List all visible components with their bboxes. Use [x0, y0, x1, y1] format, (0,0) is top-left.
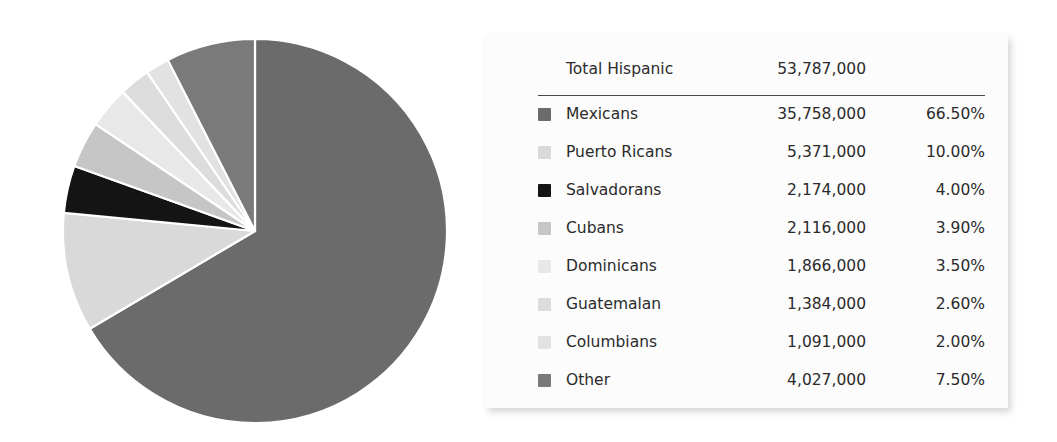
legend-row-percent: 2.60%: [866, 286, 985, 324]
legend-swatch-cell: [538, 286, 563, 324]
legend-row-value: 5,371,000: [718, 134, 866, 172]
legend-row[interactable]: Puerto Ricans5,371,00010.00%: [538, 134, 985, 172]
legend-row-percent: 3.50%: [866, 248, 985, 286]
legend-row-value: 4,027,000: [718, 362, 866, 400]
legend-color-swatch: [538, 374, 551, 387]
legend-table: Total Hispanic 53,787,000 Mexicans35,758…: [538, 52, 985, 400]
legend-row[interactable]: Salvadorans2,174,0004.00%: [538, 172, 985, 210]
legend-row-label: Columbians: [563, 324, 718, 362]
legend-header-label: Total Hispanic: [563, 52, 718, 95]
legend-row[interactable]: Cubans2,116,0003.90%: [538, 210, 985, 248]
legend-color-swatch: [538, 146, 551, 159]
legend-row-percent: 7.50%: [866, 362, 985, 400]
legend-row-percent: 66.50%: [866, 96, 985, 134]
legend-row[interactable]: Columbians1,091,0002.00%: [538, 324, 985, 362]
legend-header-row: Total Hispanic 53,787,000: [538, 52, 985, 95]
legend-row-value: 35,758,000: [718, 96, 866, 134]
legend-row-label: Guatemalan: [563, 286, 718, 324]
legend-row-percent: 2.00%: [866, 324, 985, 362]
legend-row-label: Other: [563, 362, 718, 400]
legend-swatch-cell: [538, 134, 563, 172]
legend-row-label: Mexicans: [563, 96, 718, 134]
legend-row[interactable]: Other4,027,0007.50%: [538, 362, 985, 400]
legend-row-label: Salvadorans: [563, 172, 718, 210]
pie-chart: [62, 38, 448, 424]
legend-color-swatch: [538, 260, 551, 273]
legend-color-swatch: [538, 336, 551, 349]
legend-panel: Total Hispanic 53,787,000 Mexicans35,758…: [485, 35, 1008, 408]
legend-swatch-cell: [538, 362, 563, 400]
legend-row-percent: 4.00%: [866, 172, 985, 210]
legend-color-swatch: [538, 222, 551, 235]
legend-color-swatch: [538, 298, 551, 311]
pie-chart-svg: [62, 38, 448, 424]
legend-swatch-cell: [538, 324, 563, 362]
legend-swatch-cell: [538, 172, 563, 210]
figure-root: Total Hispanic 53,787,000 Mexicans35,758…: [0, 0, 1057, 442]
legend-header-value: 53,787,000: [718, 52, 866, 95]
legend-color-swatch: [538, 108, 551, 121]
legend-row-value: 1,866,000: [718, 248, 866, 286]
legend-swatch-cell: [538, 96, 563, 134]
legend-header-percent: [866, 52, 985, 95]
legend-row[interactable]: Mexicans35,758,00066.50%: [538, 96, 985, 134]
legend-row-value: 1,091,000: [718, 324, 866, 362]
legend-row[interactable]: Guatemalan1,384,0002.60%: [538, 286, 985, 324]
legend-row-value: 2,116,000: [718, 210, 866, 248]
legend-row-label: Cubans: [563, 210, 718, 248]
legend-row-percent: 3.90%: [866, 210, 985, 248]
legend-swatch-cell: [538, 210, 563, 248]
legend-row-value: 2,174,000: [718, 172, 866, 210]
legend-row-percent: 10.00%: [866, 134, 985, 172]
legend-swatch-cell: [538, 248, 563, 286]
legend-table-body: Total Hispanic 53,787,000 Mexicans35,758…: [538, 52, 985, 400]
legend-row-label: Dominicans: [563, 248, 718, 286]
legend-row[interactable]: Dominicans1,866,0003.50%: [538, 248, 985, 286]
legend-header-swatch-cell: [538, 52, 563, 95]
legend-color-swatch: [538, 184, 551, 197]
legend-row-label: Puerto Ricans: [563, 134, 718, 172]
legend-row-value: 1,384,000: [718, 286, 866, 324]
